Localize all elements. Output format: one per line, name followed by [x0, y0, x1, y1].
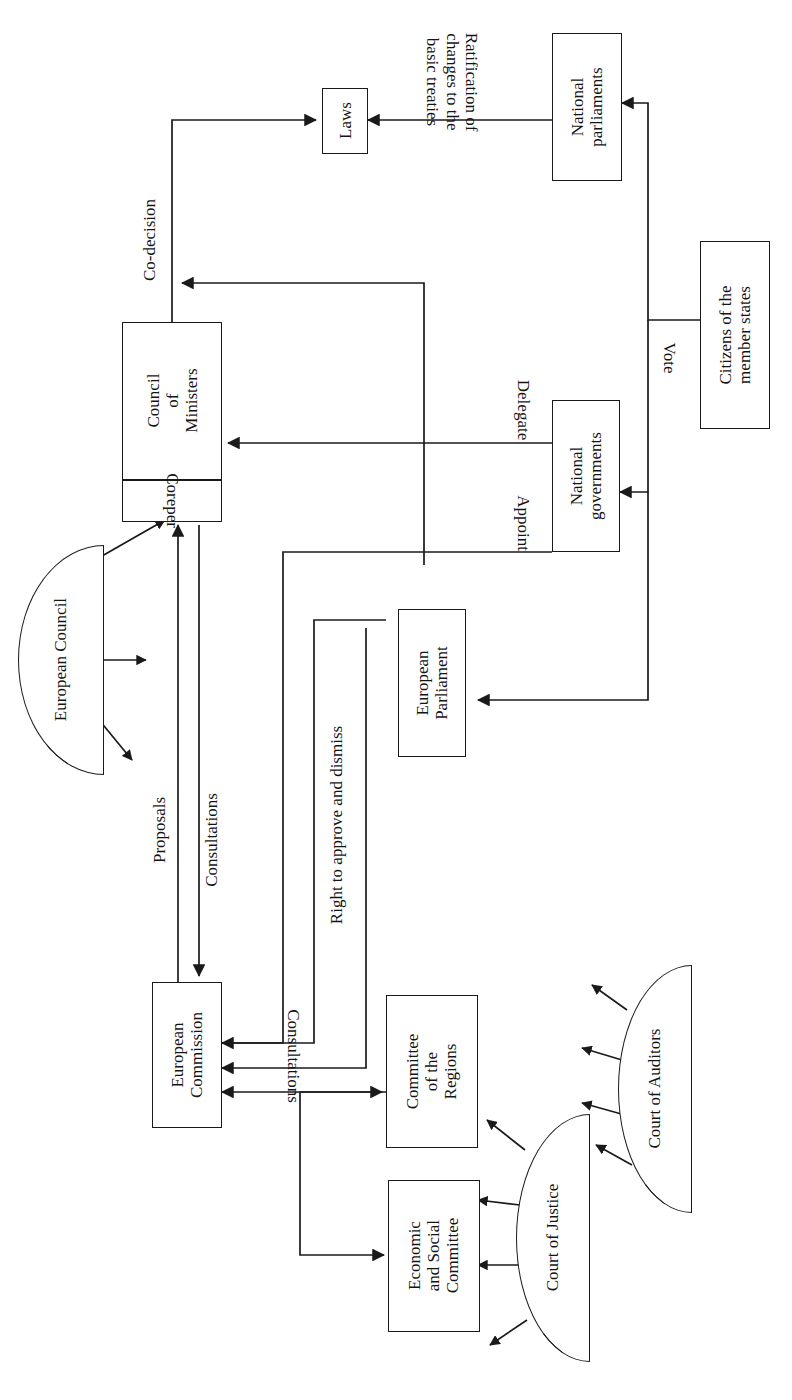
node-european-council[interactable]: European Council	[18, 545, 104, 775]
edge-council-to-laws	[172, 120, 316, 322]
node-citizens-label: Citizens of the member states	[716, 285, 754, 384]
node-coreper-label: Coreper	[162, 474, 181, 529]
node-economic-social-committee[interactable]: Economic and Social Committee	[388, 1180, 480, 1332]
node-laws-label: Laws	[335, 103, 354, 140]
node-laws[interactable]: Laws	[322, 88, 368, 154]
eu-institutions-diagram: Laws National parliaments Council of Min…	[0, 0, 792, 1400]
edge-coj-4	[490, 1320, 527, 1345]
edge-coa-1	[592, 985, 627, 1010]
edge-ep-right-approve-a	[222, 620, 386, 1043]
node-court-of-justice[interactable]: Court of Justice	[516, 1114, 590, 1362]
edge-label-right-to-approve: Right to approve and dismiss	[327, 726, 346, 924]
node-national-parliaments[interactable]: National parliaments	[552, 33, 622, 181]
node-committee-of-regions[interactable]: Committee of the Regions	[386, 995, 478, 1148]
node-european-commission[interactable]: European Commission	[152, 982, 222, 1128]
edge-label-vote: Vote	[659, 343, 678, 374]
node-court-of-justice-label: Court of Justice	[543, 1184, 562, 1292]
edge-coj-1	[487, 1120, 525, 1150]
node-european-council-label: European Council	[51, 598, 70, 721]
node-economic-social-committee-label: Economic and Social Committee	[405, 1218, 462, 1294]
edge-eucouncil-to-coreper	[95, 520, 165, 560]
node-council-of-ministers-label: Council of Ministers	[143, 369, 200, 433]
edge-coj-2	[478, 1200, 520, 1205]
node-european-parliament-label: European Parliament	[413, 646, 451, 720]
edge-label-ratification: Ratification of changes to the basic tre…	[423, 33, 481, 132]
edge-citizens-vote-parliaments	[622, 103, 700, 320]
node-citizens[interactable]: Citizens of the member states	[700, 241, 770, 429]
node-coreper[interactable]: Coreper	[122, 480, 222, 522]
node-court-of-auditors[interactable]: Court of Auditors	[618, 965, 692, 1213]
node-national-parliaments-label: National parliaments	[568, 67, 606, 146]
node-european-commission-label: European Commission	[168, 1012, 206, 1098]
node-court-of-auditors-label: Court of Auditors	[645, 1029, 664, 1149]
edge-label-proposals: Proposals	[150, 797, 169, 863]
edge-label-delegate: Delegate	[513, 380, 532, 440]
node-national-governments[interactable]: National governments	[552, 400, 620, 552]
edge-coa-2	[582, 1048, 622, 1060]
node-council-of-ministers[interactable]: Council of Ministers	[122, 322, 222, 480]
node-european-parliament[interactable]: European Parliament	[398, 609, 466, 757]
edge-label-appoint: Appoint	[513, 495, 532, 551]
node-national-governments-label: National governments	[567, 432, 605, 520]
edge-govts-appoint-commission	[222, 552, 552, 1043]
edge-label-consultations-council: Consultations	[202, 793, 221, 887]
edge-label-co-decision: Co-decision	[140, 199, 159, 281]
edge-commission-to-esc	[300, 1092, 384, 1255]
edge-label-consultations-committees: Consultations	[283, 1009, 302, 1103]
edge-citizens-vote-govts	[620, 320, 648, 492]
node-committee-of-regions-label: Committee of the Regions	[403, 1034, 460, 1110]
